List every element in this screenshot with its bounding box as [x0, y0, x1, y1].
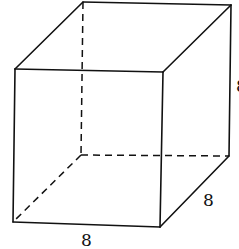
depth-edge-label: 8: [203, 190, 214, 210]
top-right-depth-edge: [163, 5, 231, 72]
bottom-edge-label: 8: [81, 230, 92, 249]
cube-diagram: 8 8 8: [0, 0, 239, 249]
top-back-edge: [83, 2, 231, 5]
front-bottom-edge: [13, 222, 160, 227]
back-right-edge: [229, 5, 231, 156]
front-right-edge: [160, 72, 163, 227]
back-bottom-hidden-edge: [81, 155, 229, 156]
bottom-right-depth-edge: [160, 156, 229, 227]
visible-edges: [13, 2, 231, 227]
front-top-edge: [15, 69, 163, 72]
right-edge-label: 8: [236, 76, 239, 96]
bottom-left-depth-hidden-edge: [13, 155, 81, 222]
back-left-hidden-edge: [81, 2, 83, 155]
front-left-edge: [13, 69, 15, 222]
top-left-depth-edge: [15, 2, 83, 69]
